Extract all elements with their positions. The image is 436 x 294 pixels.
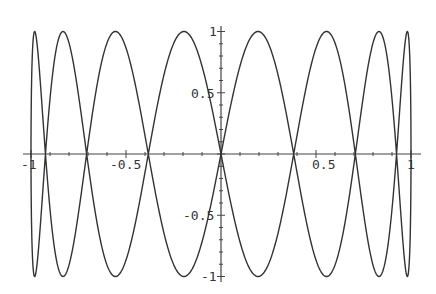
x-tick-label-0.5: 0.5 [312,157,335,172]
lissajous-plot: -1 -0.5 0.5 1 1 0.5 -0.5 -1 [0,0,436,294]
y-tick-label-1: 1 [209,24,217,39]
y-tick-label-neg0.5: -0.5 [183,208,214,223]
y-tick-label-0.5: 0.5 [191,86,214,101]
axes [23,26,421,282]
y-tick-label-neg1: -1 [201,269,217,284]
x-tick-label-1: 1 [407,157,415,172]
x-tick-label-neg0.5: -0.5 [110,157,141,172]
x-tick-label-neg1: -1 [21,157,37,172]
